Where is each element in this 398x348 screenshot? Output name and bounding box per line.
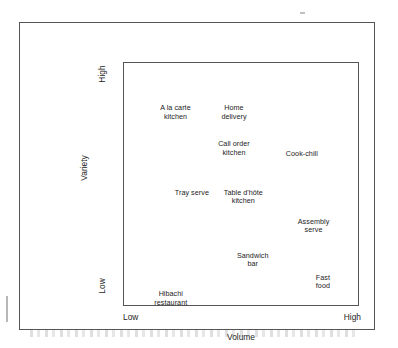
data-point-label: Homedelivery: [221, 104, 246, 121]
y-axis-tick-high: High: [97, 57, 107, 91]
data-point-label: Hibachirestaurant: [154, 290, 187, 307]
data-point-label-line1: Assembly: [298, 217, 330, 226]
data-point-label: Cook-chill: [286, 150, 318, 159]
data-point-label-line2: bar: [237, 260, 269, 269]
data-point-label-line1: Table d'hôte: [224, 188, 263, 197]
data-point-label: A la cartekitchen: [160, 104, 190, 121]
data-point-label-line2: food: [316, 282, 330, 291]
x-axis-tick-low: Low: [123, 312, 138, 322]
y-axis-title: Variety: [79, 138, 89, 198]
x-axis-title: Volume: [123, 332, 359, 342]
x-axis-tick-high: High: [327, 312, 361, 322]
data-point-label-line2: kitchen: [218, 149, 250, 158]
data-point-label: Assemblyserve: [298, 218, 330, 235]
data-point-label-line1: Home: [224, 103, 243, 112]
plot-area: A la cartekitchenHomedeliveryCall orderk…: [123, 62, 359, 306]
data-point-label-line1: Hibachi: [159, 289, 183, 298]
data-point-label: Call orderkitchen: [218, 140, 250, 157]
data-point-label-line1: Sandwich: [237, 251, 269, 260]
data-point-label-line2: kitchen: [160, 113, 190, 122]
data-point-label-line2: restaurant: [154, 299, 187, 308]
data-point-label-line1: Tray serve: [175, 188, 209, 197]
scan-artifact-left-edge-mark: [6, 296, 8, 322]
data-point-label-line2: serve: [298, 226, 330, 235]
data-point-label: Sandwichbar: [237, 252, 269, 269]
data-point-label: Table d'hôtekitchen: [224, 189, 263, 206]
data-point-label: Tray serve: [175, 189, 209, 198]
figure-frame: Variety High Low Low High Volume A la ca…: [19, 22, 375, 330]
data-point-label: Fastfood: [316, 274, 330, 291]
scan-artifact-top-tick: [300, 12, 305, 14]
data-point-label-line1: A la carte: [160, 103, 190, 112]
data-point-label-line2: delivery: [221, 113, 246, 122]
data-point-label-line1: Cook-chill: [286, 149, 318, 158]
data-point-label-line1: Fast: [316, 273, 330, 282]
data-point-label-line1: Call order: [218, 139, 250, 148]
data-point-label-line2: kitchen: [224, 197, 263, 206]
y-axis-tick-low: Low: [97, 269, 107, 303]
